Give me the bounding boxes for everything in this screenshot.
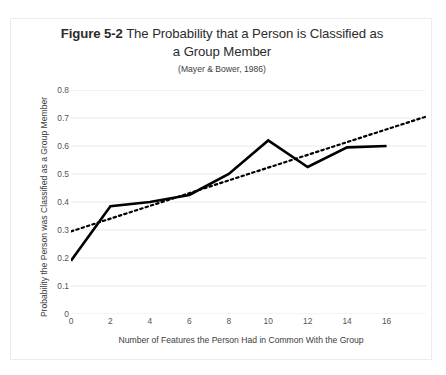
x-axis-tick-labels: 0246810121416 xyxy=(71,316,426,330)
x-axis-tick-label: 10 xyxy=(253,316,283,326)
chart-title-line-1: Figure 5-2 The Probability that a Person… xyxy=(41,25,403,43)
x-axis-tick-label: 12 xyxy=(293,316,323,326)
chart-title-block: Figure 5-2 The Probability that a Person… xyxy=(41,25,403,76)
x-axis-title: Number of Features the Person Had in Com… xyxy=(56,335,426,345)
y-axis-tick-label: 0.8 xyxy=(43,85,69,95)
gridlines xyxy=(71,90,426,314)
chart-title-line-2: a Group Member xyxy=(41,43,403,61)
observed-probability-series xyxy=(71,140,387,260)
x-axis-tick-label: 16 xyxy=(372,316,402,326)
figure-frame: Figure 5-2 The Probability that a Person… xyxy=(10,18,432,360)
y-axis-title: Probability the Person was Classified as… xyxy=(39,95,49,319)
chart-title-rest: The Probability that a Person is Classif… xyxy=(123,26,383,41)
x-axis-tick-label: 8 xyxy=(214,316,244,326)
chart-subtitle: (Mayer & Bower, 1986) xyxy=(41,62,403,76)
x-axis-tick-label: 0 xyxy=(56,316,86,326)
x-axis-tick-label: 4 xyxy=(135,316,165,326)
x-axis-tick-label: 2 xyxy=(95,316,125,326)
x-axis-tick-label: 14 xyxy=(332,316,362,326)
plot-area xyxy=(71,90,426,314)
figure-number: Figure 5-2 xyxy=(61,26,123,41)
chart-plot-svg xyxy=(71,90,426,314)
x-axis-tick-label: 6 xyxy=(174,316,204,326)
